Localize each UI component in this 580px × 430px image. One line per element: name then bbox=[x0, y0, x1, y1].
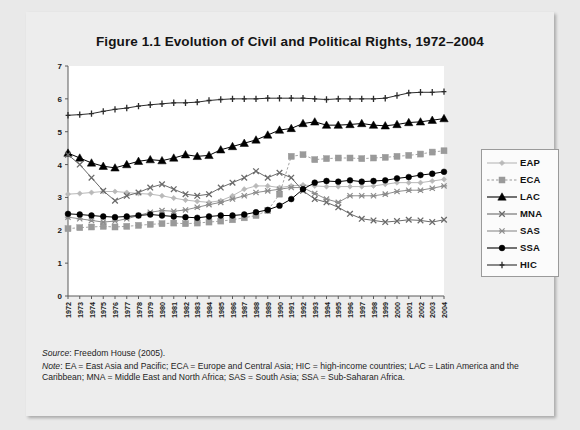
svg-text:1991: 1991 bbox=[287, 302, 296, 318]
svg-text:1993: 1993 bbox=[311, 302, 320, 318]
svg-text:1975: 1975 bbox=[99, 302, 108, 318]
square-icon bbox=[485, 172, 519, 188]
source-text: : Freedom House (2005). bbox=[69, 348, 165, 358]
svg-text:1974: 1974 bbox=[88, 302, 97, 318]
note-label: Note bbox=[42, 361, 60, 371]
source-label: Source bbox=[42, 348, 69, 358]
triangle-icon bbox=[485, 189, 519, 205]
svg-text:1999: 1999 bbox=[381, 302, 390, 318]
abbreviation-note: Note: EA = East Asia and Pacific; ECA = … bbox=[42, 361, 538, 384]
svg-text:7: 7 bbox=[58, 62, 63, 71]
page-title: Figure 1.1 Evolution of Civil and Politi… bbox=[26, 34, 554, 49]
line-chart: 0123456719721973197419751976197719781979… bbox=[40, 60, 540, 325]
legend-item-eca[interactable]: ECA bbox=[482, 171, 558, 188]
svg-text:1983: 1983 bbox=[193, 302, 202, 318]
svg-text:1986: 1986 bbox=[229, 302, 238, 318]
svg-text:1976: 1976 bbox=[111, 302, 120, 318]
svg-text:1998: 1998 bbox=[370, 302, 379, 318]
legend-item-lac[interactable]: LAC bbox=[482, 188, 558, 205]
circle-icon bbox=[485, 240, 519, 256]
svg-text:5: 5 bbox=[58, 128, 63, 137]
svg-text:1989: 1989 bbox=[264, 302, 273, 318]
svg-text:1972: 1972 bbox=[64, 302, 73, 318]
svg-text:2004: 2004 bbox=[440, 302, 449, 318]
svg-text:1977: 1977 bbox=[123, 302, 132, 318]
source-note: Source: Freedom House (2005). bbox=[42, 348, 538, 359]
star-cross-icon bbox=[485, 223, 519, 239]
svg-text:1992: 1992 bbox=[299, 302, 308, 318]
legend-item-hic[interactable]: HIC bbox=[482, 256, 558, 273]
svg-text:6: 6 bbox=[58, 95, 63, 104]
svg-text:1980: 1980 bbox=[158, 302, 167, 318]
svg-text:1996: 1996 bbox=[346, 302, 355, 318]
svg-text:1: 1 bbox=[58, 259, 63, 268]
svg-text:1982: 1982 bbox=[182, 302, 191, 318]
note-text: : EA = East Asia and Pacific; ECA = Euro… bbox=[42, 361, 519, 382]
svg-text:1994: 1994 bbox=[323, 302, 332, 318]
svg-text:1988: 1988 bbox=[252, 302, 261, 318]
svg-text:0: 0 bbox=[58, 292, 63, 301]
svg-text:1979: 1979 bbox=[146, 302, 155, 318]
svg-text:2002: 2002 bbox=[417, 302, 426, 318]
svg-text:1973: 1973 bbox=[76, 302, 85, 318]
diamond-icon bbox=[485, 155, 519, 171]
svg-text:1990: 1990 bbox=[276, 302, 285, 318]
figure-notes: Source: Freedom House (2005). Note: EA =… bbox=[42, 348, 538, 384]
legend-label: EAP bbox=[520, 157, 540, 168]
legend-label: SSA bbox=[520, 242, 540, 253]
svg-text:2: 2 bbox=[58, 226, 63, 235]
svg-text:2003: 2003 bbox=[428, 302, 437, 318]
legend-label: SAS bbox=[520, 225, 540, 236]
svg-text:4: 4 bbox=[58, 161, 63, 170]
svg-text:1997: 1997 bbox=[358, 302, 367, 318]
svg-text:1987: 1987 bbox=[240, 302, 249, 318]
svg-text:1984: 1984 bbox=[205, 302, 214, 318]
svg-text:2000: 2000 bbox=[393, 302, 402, 318]
legend-item-mna[interactable]: MNA bbox=[482, 205, 558, 222]
legend-label: LAC bbox=[520, 191, 540, 202]
svg-text:1981: 1981 bbox=[170, 302, 179, 318]
legend-label: MNA bbox=[520, 208, 542, 219]
legend-label: ECA bbox=[520, 174, 541, 185]
legend-item-eap[interactable]: EAP bbox=[482, 154, 558, 171]
svg-text:1995: 1995 bbox=[334, 302, 343, 318]
x-cross-icon bbox=[485, 206, 519, 222]
legend-label: HIC bbox=[520, 259, 537, 270]
svg-text:1985: 1985 bbox=[217, 302, 226, 318]
svg-text:2001: 2001 bbox=[405, 302, 414, 318]
chart-legend: EAPECALACMNASASSSAHIC bbox=[481, 149, 559, 277]
svg-text:3: 3 bbox=[58, 193, 63, 202]
plus-icon bbox=[485, 257, 519, 273]
legend-item-sas[interactable]: SAS bbox=[482, 222, 558, 239]
chart-plot-area: 0123456719721973197419751976197719781979… bbox=[40, 60, 540, 325]
figure-panel: Figure 1.1 Evolution of Civil and Politi… bbox=[26, 12, 554, 416]
svg-text:1978: 1978 bbox=[135, 302, 144, 318]
legend-item-ssa[interactable]: SSA bbox=[482, 239, 558, 256]
